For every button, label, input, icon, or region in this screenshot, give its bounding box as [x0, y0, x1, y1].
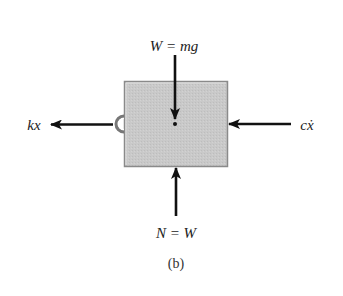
- weight-label: W = mg: [150, 38, 199, 54]
- center-of-mass-dot: [173, 122, 177, 126]
- free-body-diagram: W = mg kx cẋ N = W (b): [0, 0, 343, 296]
- normal-force-label: N = W: [155, 225, 198, 241]
- damper-force-label: cẋ: [300, 117, 314, 133]
- spring-force-label: kx: [27, 117, 41, 133]
- figure-caption: (b): [168, 256, 185, 272]
